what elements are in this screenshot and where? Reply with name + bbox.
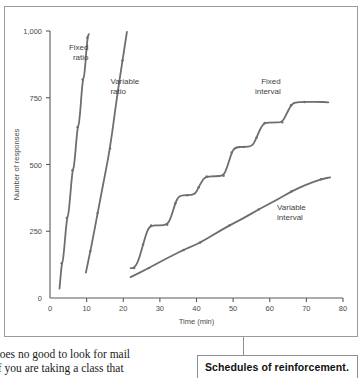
figure-caption-text: Schedules of reinforcement. xyxy=(205,361,349,373)
x-axis-title: Time (min) xyxy=(179,317,215,326)
x-tick-label: 30 xyxy=(156,304,164,313)
page-body-text: does no good to look for mail If you are… xyxy=(0,348,186,375)
response-marker xyxy=(81,78,83,80)
response-marker xyxy=(61,262,63,264)
response-marker xyxy=(133,267,135,269)
response-marker xyxy=(291,190,293,192)
response-marker xyxy=(89,250,91,252)
curve-fixed-ratio xyxy=(60,34,89,288)
response-marker xyxy=(197,186,199,188)
response-marker xyxy=(230,151,232,153)
response-marker xyxy=(86,36,88,38)
response-marker xyxy=(206,175,208,177)
y-tick-label: 0 xyxy=(38,294,42,303)
response-marker xyxy=(71,169,73,171)
response-marker xyxy=(263,122,265,124)
x-tick-label: 10 xyxy=(82,304,90,313)
curve-variable-interval xyxy=(131,177,331,277)
y-tick-label: 500 xyxy=(29,161,42,170)
response-marker xyxy=(222,175,224,177)
response-marker xyxy=(66,217,68,219)
body-text-line-2: If you are taking a class that xyxy=(0,362,186,376)
schedules-of-reinforcement-chart: 0102030405060708002505007501,000Time (mi… xyxy=(5,7,359,338)
x-tick-label: 60 xyxy=(266,304,274,313)
x-tick-label: 80 xyxy=(339,304,347,313)
response-marker xyxy=(150,224,152,226)
y-tick-label: 750 xyxy=(29,94,42,103)
response-marker xyxy=(228,224,230,226)
x-tick-label: 20 xyxy=(119,304,127,313)
response-marker xyxy=(186,194,188,196)
response-marker xyxy=(281,121,283,123)
response-marker xyxy=(109,147,111,149)
response-marker xyxy=(96,212,98,214)
response-marker xyxy=(290,104,292,106)
response-marker xyxy=(303,101,305,103)
curve-label-fixed-interval: Fixedinterval xyxy=(255,77,281,96)
x-tick-label: 70 xyxy=(302,304,310,313)
response-marker xyxy=(243,146,245,148)
body-text-line-1: does no good to look for mail xyxy=(0,348,186,362)
figure-panel: 0102030405060708002505007501,000Time (mi… xyxy=(4,6,358,337)
response-marker xyxy=(148,267,150,269)
response-marker xyxy=(121,59,123,61)
response-marker xyxy=(199,241,201,243)
response-marker xyxy=(182,249,184,251)
response-marker xyxy=(174,202,176,204)
figure-caption-box: Schedules of reinforcement. xyxy=(197,355,358,378)
response-marker xyxy=(142,243,144,245)
curve-label-variable-interval: Variableinterval xyxy=(277,203,306,222)
caption-connector-line xyxy=(243,337,244,355)
y-tick-label: 1,000 xyxy=(23,27,42,36)
response-marker xyxy=(76,126,78,128)
curve-label-fixed-ratio: Fixedratio xyxy=(69,43,89,62)
response-marker xyxy=(320,178,322,180)
response-marker xyxy=(255,137,257,139)
curve-fixed-interval xyxy=(131,102,329,268)
x-tick-label: 50 xyxy=(229,304,237,313)
response-marker xyxy=(166,224,168,226)
y-tick-label: 250 xyxy=(29,227,42,236)
curve-variable-ratio xyxy=(86,32,127,273)
x-tick-label: 40 xyxy=(192,304,200,313)
y-axis-title: Number of responses xyxy=(12,128,21,200)
x-tick-label: 0 xyxy=(48,304,52,313)
curve-label-variable-ratio: Variableratio xyxy=(110,77,139,96)
response-marker xyxy=(258,208,260,210)
